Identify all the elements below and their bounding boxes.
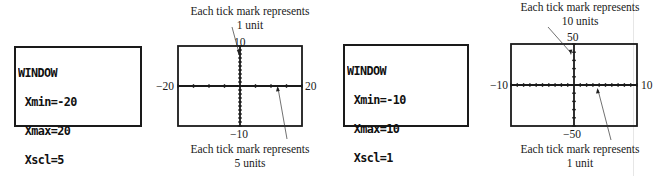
callout-arrow-bottom bbox=[278, 88, 287, 139]
callout-arrowhead-bottom bbox=[596, 88, 600, 94]
callout-arrowhead-top bbox=[569, 49, 573, 55]
graph-canvas bbox=[0, 0, 660, 176]
callout-arrow-top bbox=[232, 27, 239, 53]
callout-arrow-top bbox=[548, 27, 571, 53]
callout-arrow-bottom bbox=[598, 90, 611, 140]
